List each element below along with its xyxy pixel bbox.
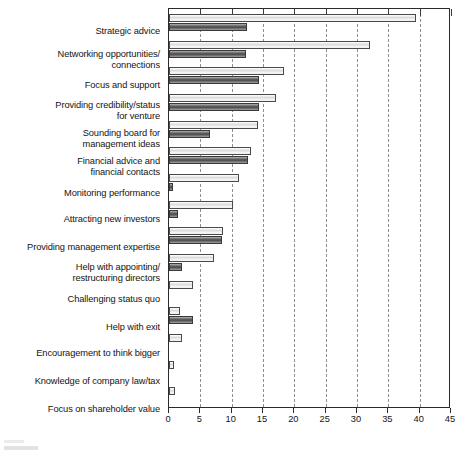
x-tick-label: 20 — [278, 414, 308, 424]
bar — [169, 307, 180, 315]
category-label: Strategic advice — [0, 26, 160, 37]
bar — [169, 50, 246, 58]
bar — [169, 281, 193, 289]
x-tick-label: 0 — [153, 414, 183, 424]
category-label: Help with appointing/ restructuring dire… — [0, 262, 160, 284]
category-label: Monitoring performance — [0, 188, 160, 199]
category-label: Financial advice and financial contacts — [0, 156, 160, 178]
category-label: Focus on shareholder value — [0, 404, 160, 415]
bar — [169, 147, 251, 155]
x-tick — [231, 408, 232, 413]
category-label: Knowledge of company law/tax — [0, 376, 160, 387]
category-label-column: Strategic advice Networking opportunitie… — [0, 8, 164, 408]
category-label: Attracting new investors — [0, 214, 160, 225]
bar — [169, 121, 258, 129]
plot-area — [168, 8, 450, 408]
x-tick-label: 45 — [435, 414, 465, 424]
x-tick — [450, 408, 451, 413]
category-label: Networking opportunities/ connections — [0, 49, 160, 71]
x-tick — [387, 408, 388, 413]
bar — [169, 94, 276, 102]
x-tick-label: 10 — [216, 414, 246, 424]
category-label: Focus and support — [0, 80, 160, 91]
bar — [169, 174, 239, 182]
x-tick — [356, 408, 357, 413]
category-label: Challenging status quo — [0, 294, 160, 305]
bar — [169, 387, 175, 395]
bar — [169, 210, 178, 218]
bar — [169, 227, 223, 235]
bar — [169, 76, 259, 84]
plot-inner — [169, 9, 449, 407]
category-label: Help with exit — [0, 322, 160, 333]
x-tick-label: 15 — [247, 414, 277, 424]
x-tick — [199, 408, 200, 413]
gridline — [326, 9, 327, 407]
bar — [169, 263, 182, 271]
category-label: Providing management expertise — [0, 242, 160, 253]
category-label: Encouragement to think bigger — [0, 348, 160, 359]
bar — [169, 361, 174, 369]
gridline — [294, 9, 295, 407]
bar — [169, 156, 248, 164]
x-tick-label: 40 — [404, 414, 434, 424]
x-tick — [419, 408, 420, 413]
bar — [169, 14, 416, 22]
x-tick-label: 30 — [341, 414, 371, 424]
scan-artifact — [4, 440, 24, 443]
bar — [169, 183, 173, 191]
x-tick-label: 5 — [184, 414, 214, 424]
top-tick — [420, 9, 421, 16]
gridline — [420, 9, 421, 407]
x-tick-label: 25 — [310, 414, 340, 424]
bar-chart: Strategic advice Networking opportunitie… — [0, 0, 468, 455]
gridline — [357, 9, 358, 407]
category-label: Sounding board for management ideas — [0, 128, 160, 150]
x-tick — [293, 408, 294, 413]
bar — [169, 23, 247, 31]
scan-artifact — [4, 446, 38, 450]
x-tick — [262, 408, 263, 413]
gridline — [388, 9, 389, 407]
bar — [169, 130, 210, 138]
x-axis-line — [168, 407, 450, 408]
bar — [169, 254, 214, 262]
x-tick — [168, 408, 169, 413]
bar — [169, 67, 284, 75]
top-tick — [451, 9, 452, 16]
bar — [169, 103, 259, 111]
bar — [169, 201, 233, 209]
x-tick-label: 35 — [372, 414, 402, 424]
bar — [169, 236, 222, 244]
x-tick — [325, 408, 326, 413]
category-label: Providing credibility/status for venture — [0, 100, 160, 122]
bar — [169, 316, 193, 324]
bar — [169, 41, 370, 49]
bar — [169, 334, 182, 342]
